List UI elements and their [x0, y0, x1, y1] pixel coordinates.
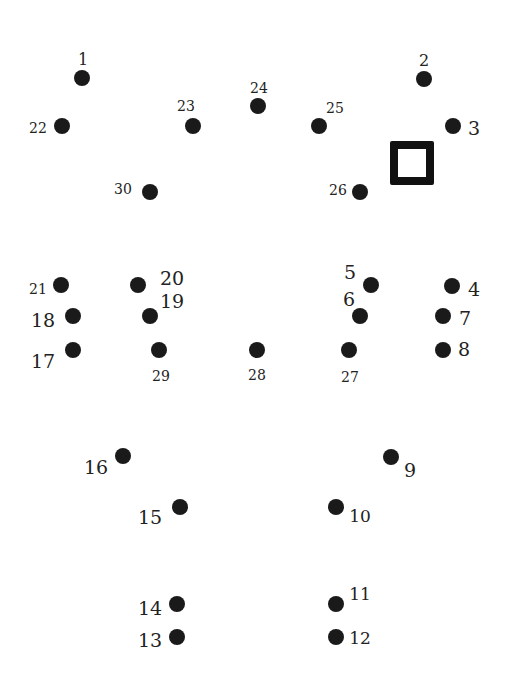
- dot-26[interactable]: [352, 184, 368, 200]
- dot-label-2: 2: [419, 53, 429, 69]
- dot-23[interactable]: [185, 118, 201, 134]
- dot-24[interactable]: [250, 98, 266, 114]
- dot-25[interactable]: [311, 118, 327, 134]
- dot-28[interactable]: [249, 342, 265, 358]
- dot-label-27: 27: [341, 370, 359, 384]
- dot-3[interactable]: [445, 118, 461, 134]
- dot-to-dot-board: 1234567891011121314151617181920212223242…: [0, 0, 512, 683]
- dot-label-18: 18: [31, 311, 55, 330]
- dot-8[interactable]: [435, 342, 451, 358]
- dot-label-29: 29: [152, 369, 170, 383]
- dot-29[interactable]: [151, 342, 167, 358]
- square-marker-icon: [390, 141, 434, 185]
- dot-label-30: 30: [114, 182, 132, 196]
- dot-16[interactable]: [115, 448, 131, 464]
- dot-label-25: 25: [326, 101, 344, 115]
- dot-label-6: 6: [343, 290, 355, 309]
- dot-20[interactable]: [130, 277, 146, 293]
- dot-label-9: 9: [404, 461, 416, 480]
- dot-label-1: 1: [78, 52, 88, 68]
- dot-label-7: 7: [459, 309, 471, 328]
- dot-22[interactable]: [54, 118, 70, 134]
- dot-1[interactable]: [74, 70, 90, 86]
- dot-label-12: 12: [349, 630, 371, 647]
- dot-label-20: 20: [160, 269, 184, 288]
- dot-14[interactable]: [169, 596, 185, 612]
- dot-label-17: 17: [31, 352, 55, 371]
- dot-15[interactable]: [172, 499, 188, 515]
- dot-label-13: 13: [138, 631, 162, 650]
- dot-12[interactable]: [328, 629, 344, 645]
- dot-30[interactable]: [142, 184, 158, 200]
- dot-17[interactable]: [65, 342, 81, 358]
- dot-18[interactable]: [65, 308, 81, 324]
- dot-5[interactable]: [363, 277, 379, 293]
- dot-label-26: 26: [329, 183, 347, 197]
- dot-13[interactable]: [169, 629, 185, 645]
- dot-6[interactable]: [352, 308, 368, 324]
- dot-label-16: 16: [84, 458, 108, 477]
- dot-27[interactable]: [341, 342, 357, 358]
- dot-label-28: 28: [248, 368, 266, 382]
- dot-label-3: 3: [468, 119, 480, 138]
- dot-label-24: 24: [250, 81, 268, 95]
- dot-19[interactable]: [142, 308, 158, 324]
- dot-9[interactable]: [383, 449, 399, 465]
- dot-label-11: 11: [349, 586, 371, 603]
- dot-10[interactable]: [328, 499, 344, 515]
- dot-label-14: 14: [138, 599, 162, 618]
- dot-label-19: 19: [160, 292, 184, 311]
- dot-label-8: 8: [458, 340, 470, 359]
- dot-label-23: 23: [177, 99, 195, 113]
- dot-label-15: 15: [138, 508, 162, 527]
- dot-label-22: 22: [29, 121, 47, 135]
- dot-label-5: 5: [344, 263, 356, 282]
- dot-label-21: 21: [29, 282, 47, 296]
- dot-label-4: 4: [468, 280, 480, 299]
- dot-11[interactable]: [328, 596, 344, 612]
- dot-2[interactable]: [416, 71, 432, 87]
- dot-21[interactable]: [53, 277, 69, 293]
- dot-label-10: 10: [349, 508, 371, 525]
- dot-4[interactable]: [444, 278, 460, 294]
- dot-7[interactable]: [435, 308, 451, 324]
